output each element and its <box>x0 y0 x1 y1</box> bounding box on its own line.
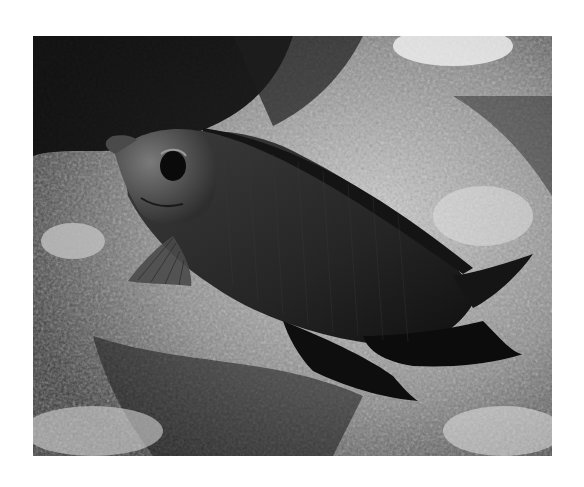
fish-eye <box>160 151 186 181</box>
rock <box>41 223 105 259</box>
fish-scene <box>33 36 552 456</box>
fish-photograph <box>33 36 552 456</box>
